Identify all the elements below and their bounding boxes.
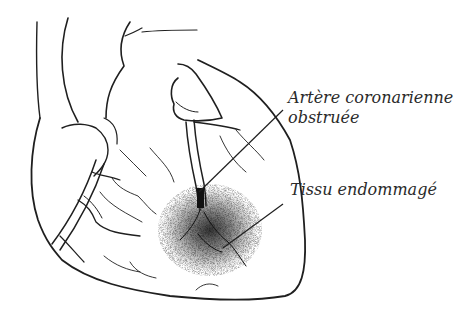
heart-outline [31, 60, 305, 300]
aorta-left-line [37, 22, 40, 118]
label-artery-line1: Artère coronarienne [288, 88, 453, 108]
heart-illustration [0, 0, 470, 310]
damaged-tissue-region [158, 184, 262, 276]
artery-leader-line [199, 110, 283, 192]
label-damaged-tissue: Tissu endommagé [290, 180, 437, 200]
label-artery-line2: obstruée [288, 108, 453, 128]
label-obstructed-artery: Artère coronarienne obstruée [288, 88, 453, 128]
